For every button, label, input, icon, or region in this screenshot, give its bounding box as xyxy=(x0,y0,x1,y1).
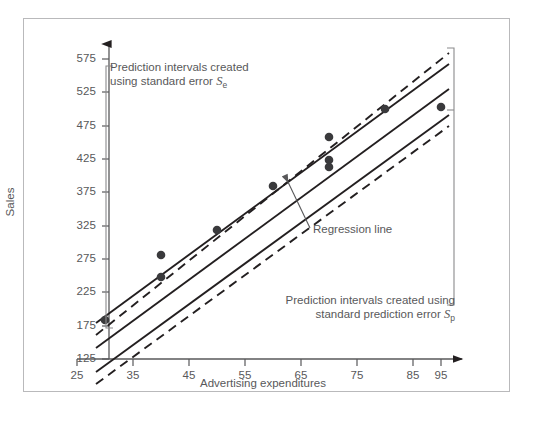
prediction-bands xyxy=(96,53,449,384)
upper-confidence-band-se xyxy=(96,64,449,323)
data-point xyxy=(157,251,166,260)
y-tick-label: 525 xyxy=(62,85,96,97)
y-axis-label: Sales xyxy=(4,177,16,227)
x-axis-ticks xyxy=(77,359,441,366)
y-tick-label: 275 xyxy=(62,252,96,264)
y-tick-label: 125 xyxy=(62,352,96,364)
x-tick-label: 95 xyxy=(426,369,456,381)
annotation-se-line2-text: using standard error xyxy=(110,75,216,87)
y-tick-label: 575 xyxy=(62,52,96,64)
y-tick-label: 375 xyxy=(62,185,96,197)
y-tick-label: 325 xyxy=(62,219,96,231)
annotation-standard-error: Prediction intervals created using stand… xyxy=(110,60,249,92)
annotation-sp-line1: Prediction intervals created using xyxy=(283,293,455,307)
annotation-sp-line2-text: standard prediction error xyxy=(316,308,444,320)
annotation-sp-line2: standard prediction error Sp xyxy=(283,307,455,325)
y-tick-label: 475 xyxy=(62,119,96,131)
lower-confidence-band-se xyxy=(96,115,449,372)
x-axis-label: Advertising expenditures xyxy=(200,377,326,389)
y-tick-label: 175 xyxy=(62,319,96,331)
annotation-se-line1: Prediction intervals created xyxy=(110,60,249,74)
x-tick-label: 25 xyxy=(62,369,92,381)
x-tick-label: 85 xyxy=(398,369,428,381)
y-tick-label: 425 xyxy=(62,152,96,164)
y-tick-label: 225 xyxy=(62,285,96,297)
annotation-standard-prediction-error: Prediction intervals created using stand… xyxy=(283,293,455,325)
data-point xyxy=(157,273,166,282)
x-tick-label: 35 xyxy=(118,369,148,381)
data-point xyxy=(437,103,446,112)
symbol-sp-subscript: p xyxy=(450,313,455,323)
data-points xyxy=(101,103,446,325)
bracket-sp xyxy=(447,48,454,305)
data-point xyxy=(325,163,334,172)
data-point xyxy=(325,133,334,142)
x-tick-label: 75 xyxy=(342,369,372,381)
data-point xyxy=(101,316,110,325)
lower-prediction-band-sp xyxy=(96,126,449,384)
scatter-plot-canvas xyxy=(0,0,536,429)
annotation-se-line2: using standard error Se xyxy=(110,74,249,92)
data-point xyxy=(213,226,222,235)
data-point xyxy=(269,182,278,191)
annotation-regression-line: Regression line xyxy=(313,222,392,236)
symbol-se-subscript: e xyxy=(222,80,227,90)
data-point xyxy=(381,105,390,114)
